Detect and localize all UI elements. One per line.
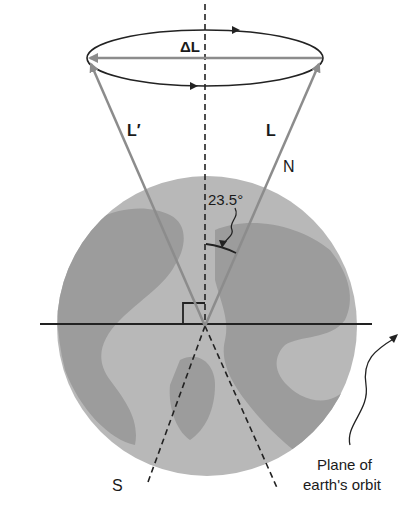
label-angle: 23.5° — [208, 191, 243, 208]
ellipse-arrow-bottom-icon — [190, 82, 198, 90]
label-delta-l: ΔL — [180, 38, 200, 55]
label-plane-line1: Plane of — [317, 456, 373, 473]
label-south: S — [112, 477, 123, 494]
precession-diagram: ΔL L′ L N 23.5° S Plane of earth's orbit — [0, 0, 419, 509]
plane-pointer-arrowhead-icon — [389, 334, 398, 343]
ellipse-arrow-top-icon — [232, 26, 240, 34]
label-l: L — [266, 122, 276, 139]
earth-globe — [57, 176, 357, 476]
label-l-prime: L′ — [127, 122, 141, 139]
label-north: N — [283, 158, 295, 175]
label-plane-line2: earth's orbit — [303, 476, 382, 493]
plane-pointer-squiggle — [349, 338, 395, 445]
